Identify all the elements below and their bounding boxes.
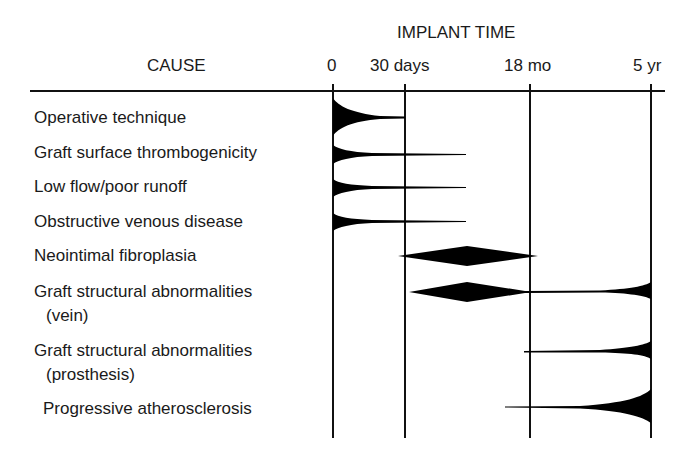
- glyph-progressive-atherosclerosis: [505, 389, 651, 423]
- glyph-graft-structural-prosthesis: [524, 341, 651, 359]
- glyph-obstructive-venous-disease: [333, 213, 466, 231]
- glyph-low-flow: [333, 179, 466, 197]
- glyph-graft-structural-vein-tail: [525, 282, 651, 299]
- glyph-operative-technique: [333, 98, 405, 136]
- timeline-plot: [0, 0, 690, 464]
- glyph-graft-surface-thrombogenicity: [333, 145, 466, 164]
- glyph-neointimal-fibroplasia: [398, 246, 538, 266]
- glyph-graft-structural-vein-diamond: [409, 282, 525, 302]
